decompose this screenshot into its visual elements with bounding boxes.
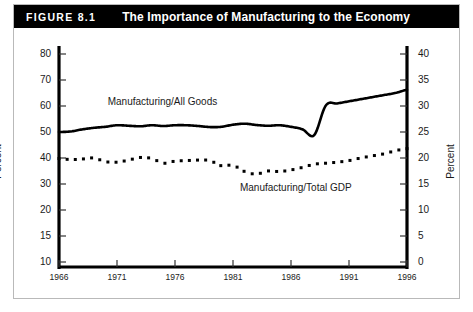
y-axis-left-title: Percent [0,144,3,178]
x-axis-tick-1966: 1966 [39,272,79,282]
figure-title: The Importance of Manufacturing to the E… [122,10,410,24]
x-axis-tick-1986: 1986 [271,272,311,282]
y-axis-left-tick-80: 80 [21,48,51,59]
x-axis-tick-1981: 1981 [213,272,253,282]
y-axis-right-tick-20: 20 [418,152,448,163]
y-axis-left-tick-20: 20 [21,204,51,215]
figure-number-label: FIGURE 8.1 [26,11,96,23]
y-axis-right-tick-25: 25 [418,126,448,137]
y-axis-right-tick-30: 30 [418,100,448,111]
figure-container: FIGURE 8.1 The Importance of Manufacturi… [0,0,473,312]
y-axis-left-tick-50: 50 [21,126,51,137]
x-axis-tick-1996: 1996 [387,272,427,282]
y-axis-right-tick-35: 35 [418,74,448,85]
y-axis-right-tick-0: 0 [418,256,448,267]
y-axis-left-tick-70: 70 [21,74,51,85]
x-axis-tick-1971: 1971 [97,272,137,282]
y-axis-left-tick-40: 40 [21,152,51,163]
y-axis-right-tick-40: 40 [418,48,448,59]
y-axis-left-tick-60: 60 [21,100,51,111]
series-label-manufacturing-total-gdp: Manufacturing/Total GDP [240,182,352,193]
x-axis-tick-1976: 1976 [155,272,195,282]
y-axis-right-tick-5: 5 [418,230,448,241]
y-axis-left-tick-30: 30 [21,178,51,189]
chart-plot-area: Percent Percent 807060504030201510051015… [0,28,473,296]
figure-header-bar: FIGURE 8.1 The Importance of Manufacturi… [14,5,459,28]
x-axis-tick-1991: 1991 [329,272,369,282]
y-axis-right-tick-10: 10 [418,204,448,215]
y-axis-right-tick-15: 15 [418,178,448,189]
y-axis-left-tick-15: 15 [21,230,51,241]
y-axis-left-tick-10: 10 [21,256,51,267]
series-label-manufacturing-all-goods: Manufacturing/All Goods [108,96,218,107]
chart-canvas [0,28,473,296]
